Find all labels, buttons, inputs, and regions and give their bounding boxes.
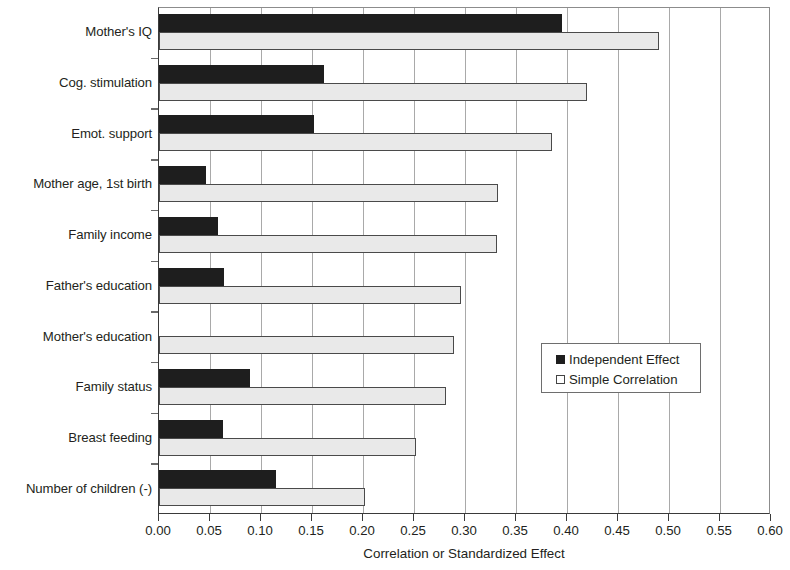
bar-independent-effect: [159, 217, 218, 235]
bar-group: [159, 262, 771, 313]
x-axis-tick: [770, 514, 771, 521]
bar-independent-effect: [159, 166, 206, 184]
bar-independent-effect: [159, 470, 276, 488]
x-axis-tick: [311, 514, 312, 521]
y-axis-tick-label: Family income: [2, 227, 152, 242]
y-axis-tick: [151, 58, 158, 60]
bar-independent-effect: [159, 369, 250, 387]
bar-chart: Mother's IQCog. stimulationEmot. support…: [0, 0, 790, 570]
y-axis-tick-label: Father's education: [2, 278, 152, 293]
y-axis-tick-label: Mother age, 1st birth: [2, 176, 152, 191]
bar-independent-effect: [159, 14, 562, 32]
x-axis-tick: [719, 514, 720, 521]
bar-simple-correlation: [159, 488, 365, 506]
y-axis-tick: [151, 311, 158, 313]
x-axis-tick: [413, 514, 414, 521]
y-axis-tick: [151, 159, 158, 161]
bar-independent-effect: [159, 268, 224, 286]
y-axis-tick: [151, 463, 158, 465]
bar-group: [159, 160, 771, 211]
bar-simple-correlation: [159, 83, 587, 101]
x-axis-tick: [209, 514, 210, 521]
y-axis-labels: Mother's IQCog. stimulationEmot. support…: [0, 7, 152, 514]
y-axis-tick-label: Mother's education: [2, 329, 152, 344]
x-axis-tick: [158, 514, 159, 521]
x-axis-tick: [464, 514, 465, 521]
legend-entry: Simple Correlation: [556, 369, 700, 389]
legend-label: Simple Correlation: [569, 372, 677, 387]
bar-simple-correlation: [159, 133, 552, 151]
y-axis-tick: [151, 362, 158, 364]
bar-simple-correlation: [159, 235, 497, 253]
bar-simple-correlation: [159, 387, 446, 405]
bar-group: [159, 8, 771, 59]
plot-area: [158, 7, 770, 514]
bar-simple-correlation: [159, 286, 461, 304]
legend-label: Independent Effect: [569, 352, 679, 367]
bar-independent-effect: [159, 115, 314, 133]
y-axis-tick: [151, 210, 158, 212]
bar-independent-effect: [159, 420, 223, 438]
bar-group: [159, 414, 771, 465]
bar-simple-correlation: [159, 336, 454, 354]
y-axis-tick-label: Breast feeding: [2, 430, 152, 445]
legend-swatch-icon: [556, 355, 565, 364]
bar-group: [159, 59, 771, 110]
x-axis-tick: [566, 514, 567, 521]
bar-simple-correlation: [159, 32, 659, 50]
y-axis-tick-label: Mother's IQ: [2, 24, 152, 39]
x-axis-tick: [260, 514, 261, 521]
x-axis-tick: [515, 514, 516, 521]
legend-entry: Independent Effect: [556, 349, 700, 369]
chart-legend: Independent EffectSimple Correlation: [541, 343, 701, 393]
x-axis-tick: [617, 514, 618, 521]
y-axis-tick-label: Family status: [2, 379, 152, 394]
y-axis-tick-label: Cog. stimulation: [2, 75, 152, 90]
y-axis-tick: [151, 108, 158, 110]
bar-group: [159, 464, 771, 515]
legend-swatch-icon: [556, 375, 565, 384]
bar-simple-correlation: [159, 438, 416, 456]
bar-independent-effect: [159, 65, 324, 83]
bar-simple-correlation: [159, 184, 498, 202]
y-axis-tick: [151, 261, 158, 263]
x-axis-tick: [668, 514, 669, 521]
y-axis-tick: [151, 413, 158, 415]
x-axis-tick-label: 0.60: [740, 523, 790, 538]
y-axis-tick-label: Number of children (-): [2, 481, 152, 496]
bar-group: [159, 211, 771, 262]
x-axis-tick: [362, 514, 363, 521]
bar-group: [159, 109, 771, 160]
y-axis-tick-label: Emot. support: [2, 126, 152, 141]
x-axis-title: Correlation or Standardized Effect: [158, 546, 770, 561]
